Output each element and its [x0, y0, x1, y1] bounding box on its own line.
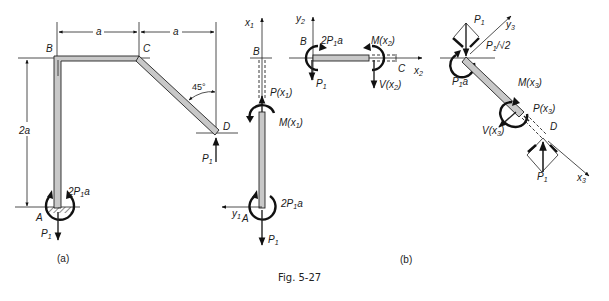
label-a: A: [35, 212, 43, 223]
shear-label-3: V(x3): [482, 125, 504, 137]
top-force-label: P1: [474, 14, 485, 26]
axis-x2-label: x2: [413, 65, 423, 77]
angle-label: 45°: [192, 82, 206, 92]
force-label-seg2: P1: [316, 78, 327, 90]
axis-y3-label: y3: [505, 19, 515, 31]
segment-1-bar: [259, 112, 265, 208]
angle-arc: [189, 92, 215, 100]
reaction-force-label: P1: [41, 228, 52, 240]
segment-2-bar: [313, 55, 369, 61]
shear-label-2: V(x2): [379, 79, 401, 91]
panel-a-frame-diagram: B C D A a a 2a 45° P1 P1 2P1a (a): [15, 22, 238, 264]
fixed-support-hatch: [45, 207, 75, 213]
internal-moment-label-2: M(x2): [371, 35, 395, 47]
internal-force-label-1: P(x1): [270, 87, 292, 99]
moment-label-seg2: 2P1a: [320, 35, 343, 47]
label-b-seg1: B: [253, 46, 260, 57]
label-d-seg3: D: [550, 121, 557, 132]
label-c: C: [143, 43, 151, 54]
label-a-seg1: A: [241, 213, 249, 224]
dim-a-1: a: [96, 26, 102, 37]
figure-caption: Fig. 5-27: [278, 272, 321, 283]
panel-b-segment-3: P1 y3 P1/√2 P1a M(x3) P(x3) V(x3) D P1 x…: [440, 14, 589, 184]
internal-force-label-3: P(x3): [533, 103, 555, 115]
axis-x1-label: x1: [244, 17, 254, 29]
axis-x3-label: x3: [576, 172, 586, 184]
bottom-force-label: P1: [537, 171, 548, 183]
reaction-moment-label: 2P1a: [67, 186, 90, 198]
axis-y2-label: y2: [295, 13, 305, 25]
force-label-seg1: P1: [268, 234, 279, 246]
label-c-seg2: C: [398, 63, 406, 74]
load-label-d: P1: [202, 153, 213, 165]
internal-moment-label-3: M(x3): [518, 77, 542, 89]
label-b: B: [46, 43, 53, 54]
internal-moment-label-1: M(x1): [279, 117, 303, 129]
dim-2a: 2a: [18, 125, 31, 136]
component-label: P1/√2: [486, 40, 511, 52]
segment-3-bar: [462, 57, 524, 117]
dim-a-2: a: [173, 26, 179, 37]
panel-b-label: (b): [400, 254, 412, 265]
member-ab-bc: [54, 56, 139, 208]
axis-y1-label: y1: [231, 208, 241, 220]
panel-a-label: (a): [57, 253, 69, 264]
axis-x3: [548, 141, 589, 176]
member-cd: [136, 56, 219, 135]
panel-b-segment-2: y2 B 2P1a M(x2) C x2 P1 V(x2): [289, 13, 423, 91]
figure-canvas: B C D A a a 2a 45° P1 P1 2P1a (a) x1 B P…: [0, 0, 609, 301]
moment-label-seg1: 2P1a: [280, 198, 303, 210]
panel-b-segment-1: x1 B P(x1) M(x1) y1 A 2P1a P1: [222, 17, 303, 246]
label-b-seg2: B: [300, 36, 307, 47]
label-d: D: [223, 121, 230, 132]
